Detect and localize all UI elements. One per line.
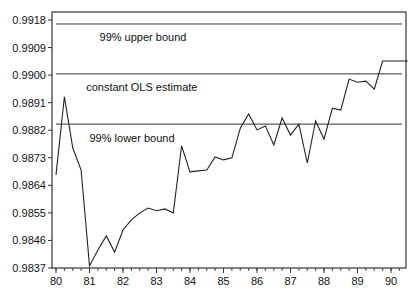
y-tick-label: 0.9918 <box>12 14 46 26</box>
x-tick-label: 89 <box>351 275 363 287</box>
y-tick-label: 0.9882 <box>12 124 46 136</box>
y-tick-label: 0.9909 <box>12 42 46 54</box>
x-tick-label: 86 <box>251 275 263 287</box>
y-tick-label: 0.9891 <box>12 97 46 109</box>
y-tick-label: 0.9864 <box>12 179 46 191</box>
annotation-label: 99% lower bound <box>90 132 175 144</box>
y-axis: 0.98370.98460.98550.98640.98730.98820.98… <box>12 14 52 274</box>
x-tick-label: 87 <box>284 275 296 287</box>
x-tick-label: 88 <box>318 275 330 287</box>
x-tick-label: 82 <box>117 275 129 287</box>
x-tick-label: 84 <box>184 275 196 287</box>
y-tick-label: 0.9846 <box>12 234 46 246</box>
line-chart: 0.98370.98460.98550.98640.98730.98820.98… <box>0 0 420 295</box>
y-tick-label: 0.9837 <box>12 262 46 274</box>
y-tick-label: 0.9873 <box>12 152 46 164</box>
annotation-label: constant OLS estimate <box>86 81 197 93</box>
annotations: 99% upper boundconstant OLS estimate99% … <box>86 31 197 144</box>
x-tick-label: 85 <box>217 275 229 287</box>
x-tick-label: 90 <box>385 275 397 287</box>
x-tick-label: 80 <box>50 275 62 287</box>
y-tick-label: 0.9900 <box>12 69 46 81</box>
x-tick-label: 83 <box>150 275 162 287</box>
x-axis: 8081828384858687888990 <box>50 268 400 287</box>
annotation-label: 99% upper bound <box>100 31 187 43</box>
y-tick-label: 0.9855 <box>12 207 46 219</box>
x-tick-label: 81 <box>83 275 95 287</box>
